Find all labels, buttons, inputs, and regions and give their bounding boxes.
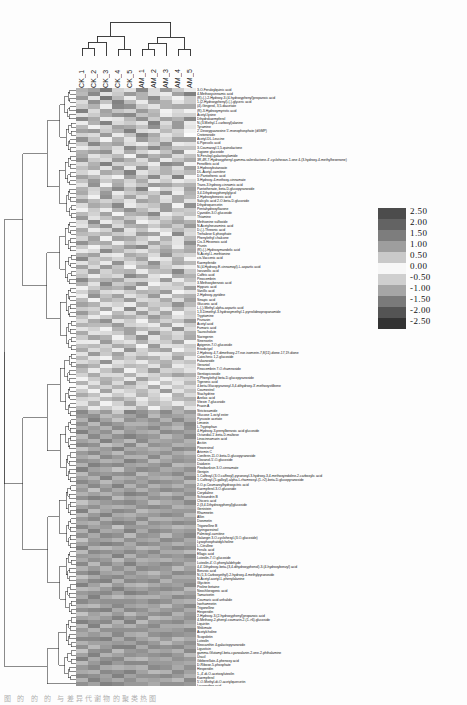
column-label-ck-3: CK_3 [100,56,112,88]
figure-caption: 图 的 的 的 与差异代谢物的聚类热图 [0,694,467,705]
legend-tick-label: 0.50 [410,250,456,261]
row-cluster-tree [2,88,76,686]
column-label-am-1: AM_1 [136,56,148,88]
legend-swatch [378,318,406,329]
column-label-am-2: AM_2 [148,56,160,88]
legend-tick-label: -1.00 [410,283,456,294]
column-label-ck-5: CK_5 [124,56,136,88]
column-label-ck-1: CK_1 [76,56,88,88]
legend-swatch [378,263,406,274]
color-scale-ticks: 2.502.001.501.000.500.00-0.50-1.00-1.50-… [410,206,456,327]
legend-tick-label: -2.00 [410,305,456,316]
column-labels: CK_1 CK_2 CK_3 CK_4 CK_5 AM_1 AM_2 AM_3 … [76,56,196,88]
dendrogram-links [4,90,76,684]
heatmap-grid [76,88,196,686]
row-label: Lycopodine acid [197,684,377,686]
legend-swatch [378,230,406,241]
column-label-ck-2: CK_2 [88,56,100,88]
heatmap-cell [184,682,196,686]
heatmap-cell [172,682,184,686]
legend-swatch [378,241,406,252]
row-labels: 3-O-Feruloylquinic acid4-Methoxycinnamic… [197,88,377,686]
legend-swatch [378,252,406,263]
heatmap-cell [124,682,136,686]
caption-text: 图 的 的 的 与差异代谢物的聚类热图 [0,694,467,703]
row-dendrogram-svg [2,88,76,686]
legend-tick-label: 2.50 [410,206,456,217]
heatmap-figure: CK_1 CK_2 CK_3 CK_4 CK_5 AM_1 AM_2 AM_3 … [0,0,467,705]
column-label-am-5: AM_5 [184,56,196,88]
heatmap-cell [76,682,88,686]
legend-tick-label: 1.50 [410,228,456,239]
legend-swatch [378,296,406,307]
legend-tick-label: 0.00 [410,261,456,272]
heatmap-cell [112,682,124,686]
legend-swatch [378,208,406,219]
column-dendrogram-svg [76,14,196,56]
legend-swatch [378,285,406,296]
heatmap-cell [160,682,172,686]
heatmap-cell [88,682,100,686]
legend-tick-label: 1.00 [410,239,456,250]
legend-tick-label: -2.50 [410,316,456,327]
legend-tick-label: -1.50 [410,294,456,305]
color-scale-bar [378,208,406,318]
column-label-am-4: AM_4 [172,56,184,88]
legend-swatch [378,274,406,285]
column-label-ck-4: CK_4 [112,56,124,88]
legend-tick-label: -0.50 [410,272,456,283]
column-cluster-tree [76,14,196,56]
column-label-am-3: AM_3 [160,56,172,88]
legend-swatch [378,307,406,318]
legend-swatch [378,219,406,230]
heatmap-cell [136,682,148,686]
legend-tick-label: 2.00 [410,217,456,228]
heatmap-cell [100,682,112,686]
heatmap-cell [148,682,160,686]
